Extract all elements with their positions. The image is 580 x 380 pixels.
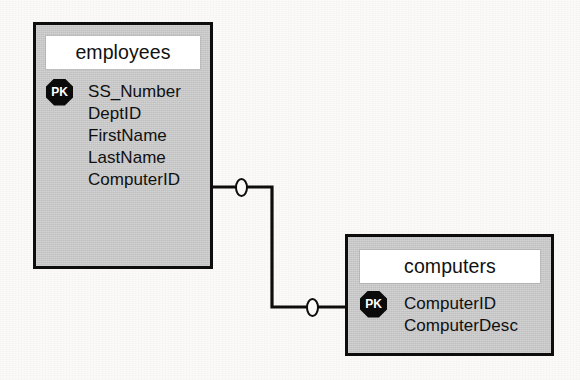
field-name: SS_Number xyxy=(88,82,181,102)
primary-key-icon: PK xyxy=(360,291,387,318)
field-row[interactable]: ComputerDesc xyxy=(348,315,551,337)
field-row[interactable]: PK ComputerID xyxy=(348,293,551,315)
field-name: FirstName xyxy=(88,126,167,146)
primary-key-badge-slot: PK xyxy=(46,79,73,106)
field-name: ComputerDesc xyxy=(404,316,518,336)
primary-key-label: PK xyxy=(365,298,381,310)
field-row[interactable]: ComputerID xyxy=(36,169,210,191)
cardinality-zero-marker-employees-side xyxy=(235,178,248,197)
entity-box-computers[interactable]: computers PK ComputerID ComputerDesc xyxy=(345,234,554,356)
entity-title-computers: computers xyxy=(404,255,496,278)
primary-key-icon: PK xyxy=(46,79,73,106)
field-row[interactable]: PK SS_Number xyxy=(36,81,210,103)
field-list-employees: PK SS_Number DeptID FirstName LastName C… xyxy=(36,81,210,191)
cardinality-zero-marker-computers-side xyxy=(306,298,319,317)
field-name: LastName xyxy=(88,148,166,168)
entity-box-employees[interactable]: employees PK SS_Number DeptID FirstName … xyxy=(33,22,213,269)
entity-title-employees: employees xyxy=(75,41,170,64)
field-row[interactable]: LastName xyxy=(36,147,210,169)
field-list-computers: PK ComputerID ComputerDesc xyxy=(348,293,551,337)
relationship-line xyxy=(205,187,352,307)
field-name: ComputerID xyxy=(404,294,496,314)
entity-title-band-employees: employees xyxy=(46,36,200,69)
entity-title-band-computers: computers xyxy=(360,250,540,283)
field-row[interactable]: FirstName xyxy=(36,125,210,147)
field-row[interactable]: DeptID xyxy=(36,103,210,125)
field-name: DeptID xyxy=(88,104,141,124)
primary-key-label: PK xyxy=(51,86,67,98)
er-diagram-canvas: employees PK SS_Number DeptID FirstName … xyxy=(0,0,580,380)
field-name-foreign-key: ComputerID xyxy=(88,170,180,190)
primary-key-badge-slot: PK xyxy=(360,291,387,318)
